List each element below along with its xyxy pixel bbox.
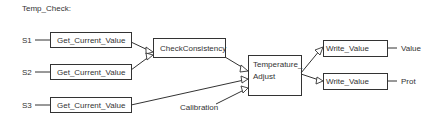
- arrow-head-icon: [315, 47, 323, 55]
- block-get-current-value-2[interactable]: Get_Current_Value: [51, 65, 132, 80]
- arrow-head-icon: [146, 53, 153, 60]
- diagram-title: Temp_Check:: [22, 4, 71, 13]
- block-label: Write_Value: [326, 77, 369, 86]
- wire-get3-temp: [131, 80, 244, 105]
- block-get-current-value-1[interactable]: Get_Current_Value: [51, 33, 132, 48]
- block-label: Get_Current_Value: [57, 101, 126, 110]
- block-get-current-value-3[interactable]: Get_Current_Value: [51, 98, 132, 113]
- block-temperature-adjust[interactable]: Temperature_ Adjust: [249, 56, 303, 96]
- output-label-prot: Prot: [401, 77, 416, 86]
- block-label: CheckConsistency: [160, 44, 226, 53]
- block-label-line1: Temperature_: [253, 60, 303, 69]
- block-label: Get_Current_Value: [57, 68, 126, 77]
- input-label-s2: S2: [22, 68, 32, 77]
- arrow-head-icon: [240, 65, 248, 72]
- block-write-value-2[interactable]: Write_Value: [324, 74, 388, 90]
- input-label-s3: S3: [22, 101, 32, 110]
- calibration-label: Calibration: [180, 103, 218, 112]
- output-label-value: Value: [401, 44, 421, 53]
- arrow-head-icon: [241, 76, 248, 83]
- block-write-value-1[interactable]: Write_Value: [324, 41, 388, 57]
- block-check-consistency[interactable]: CheckConsistency: [154, 39, 227, 58]
- wire-calibration-temp: [216, 90, 244, 104]
- block-label-line2: Adjust: [253, 72, 276, 81]
- diagram-canvas: Temp_Check: S1 S2 S3 Get_Current_Value G…: [0, 0, 438, 122]
- block-label: Write_Value: [326, 44, 369, 53]
- block-label: Get_Current_Value: [57, 36, 126, 45]
- wire-temp-write1: [301, 50, 320, 73]
- input-label-s1: S1: [22, 36, 32, 45]
- arrow-head-icon: [316, 77, 323, 84]
- arrow-head-icon: [241, 86, 248, 93]
